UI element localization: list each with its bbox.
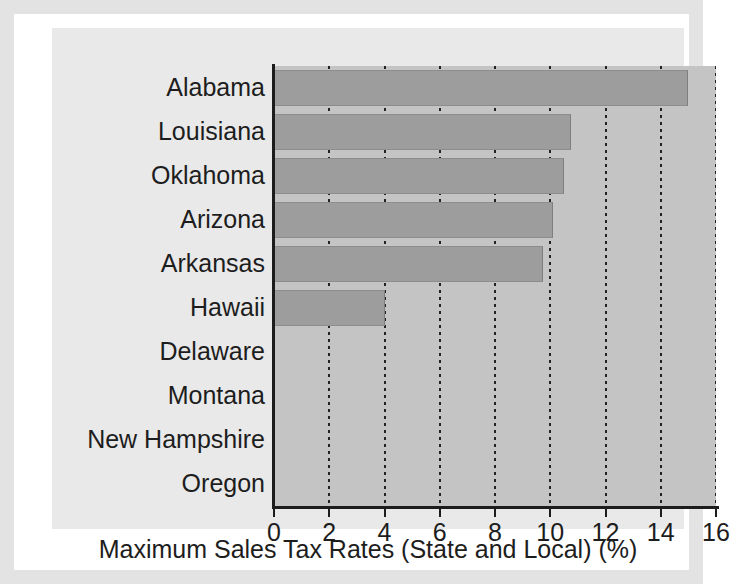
x-tick-label-16: 16	[686, 517, 734, 547]
x-tick-12	[605, 506, 607, 517]
category-label-arkansas: Arkansas	[52, 251, 272, 276]
category-label-new-hampshire: New Hampshire	[52, 427, 272, 452]
gridline-14	[660, 66, 662, 506]
x-tick-8	[494, 506, 496, 517]
x-tick-4	[384, 506, 386, 517]
category-label-montana: Montana	[52, 383, 272, 408]
category-label-delaware: Delaware	[52, 339, 272, 364]
category-label-hawaii: Hawaii	[52, 295, 272, 320]
gridline-12	[605, 66, 607, 506]
x-axis-title: Maximum Sales Tax Rates (State and Local…	[52, 535, 684, 564]
plot-area	[274, 66, 716, 506]
y-axis-line	[272, 64, 275, 508]
category-label-louisiana: Louisiana	[52, 119, 272, 144]
x-tick-16	[715, 506, 717, 517]
category-label-alabama: Alabama	[52, 75, 272, 100]
figure-panel: AlabamaLouisianaOklahomaArizonaArkansasH…	[52, 28, 684, 529]
x-tick-0	[273, 506, 275, 517]
bar-arizona	[274, 202, 553, 238]
category-label-oregon: Oregon	[52, 471, 272, 496]
bar-alabama	[274, 70, 688, 106]
category-label-oklahoma: Oklahoma	[52, 163, 272, 188]
x-tick-6	[439, 506, 441, 517]
x-tick-14	[660, 506, 662, 517]
category-label-arizona: Arizona	[52, 207, 272, 232]
x-tick-2	[328, 506, 330, 517]
y-axis-category-labels: AlabamaLouisianaOklahomaArizonaArkansasH…	[42, 66, 272, 506]
bar-arkansas	[274, 246, 543, 282]
bar-hawaii	[274, 290, 385, 326]
bar-oklahoma	[274, 158, 564, 194]
bar-louisiana	[274, 114, 571, 150]
x-tick-10	[549, 506, 551, 517]
gridline-16	[715, 66, 716, 506]
